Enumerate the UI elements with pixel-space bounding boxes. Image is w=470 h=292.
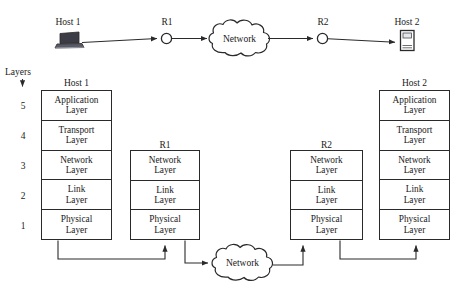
layer-line1: Transport (59, 125, 95, 135)
r1-layer-link: Link Layer (131, 181, 199, 211)
layer-line2: Layer (404, 165, 426, 175)
host2-layer-link: Link Layer (380, 180, 449, 210)
r2-router-circle-icon (317, 33, 327, 43)
r2-layer-link: Link Layer (291, 181, 362, 211)
layer-line2: Layer (66, 165, 88, 175)
layer-line2: Layer (316, 195, 338, 205)
layer-line1: Physical (399, 214, 431, 224)
link-r2-to-host2 (328, 39, 395, 42)
host2-top-label: Host 2 (383, 18, 431, 28)
layer-line1: Network (149, 155, 182, 165)
layer-line2: Layer (316, 165, 338, 175)
network-cloud-label-top: Network (212, 34, 267, 44)
layer-line1: Physical (61, 214, 93, 224)
r2-protocol-stack: Network Layer Link Layer Physical Layer (290, 150, 363, 240)
layer-line2: Layer (154, 225, 176, 235)
layer-line2: Layer (154, 165, 176, 175)
host2-layer-application: Application Layer (380, 91, 449, 121)
layer-line1: Application (393, 95, 437, 105)
r2-layer-network: Network Layer (291, 151, 362, 181)
layer-line2: Layer (316, 225, 338, 235)
host1-stack-title: Host 1 (41, 78, 112, 88)
host1-layer-link: Link Layer (42, 180, 111, 210)
r1-layer-network: Network Layer (131, 151, 199, 181)
layer-line1: Link (406, 184, 424, 194)
layer-line1: Network (398, 155, 431, 165)
r1-router-circle-icon (161, 33, 171, 43)
path-r2-physical-to-host2-physical (340, 241, 416, 260)
path-r1-physical-to-network-cloud (185, 241, 208, 264)
host2-stack-title: Host 2 (379, 78, 450, 88)
layer-line2: Layer (404, 105, 426, 115)
layer-line2: Layer (66, 225, 88, 235)
layer-line2: Layer (404, 135, 426, 145)
host2-layer-network: Network Layer (380, 151, 449, 181)
host1-layer-application: Application Layer (42, 91, 111, 121)
host1-top-label: Host 1 (44, 18, 92, 28)
host2-layer-physical: Physical Layer (380, 210, 449, 239)
r1-layer-physical: Physical Layer (131, 210, 199, 239)
layer-number-2: 2 (16, 191, 30, 201)
r2-stack-title: R2 (290, 140, 363, 150)
host1-layer-transport: Transport Layer (42, 121, 111, 151)
server-icon (401, 31, 415, 51)
r1-stack-title: R1 (130, 140, 200, 150)
layers-caption: Layers (5, 67, 31, 77)
layer-line1: Link (68, 184, 86, 194)
layer-line1: Link (156, 185, 174, 195)
host1-protocol-stack: Application Layer Transport Layer Networ… (41, 90, 112, 240)
layer-line1: Physical (311, 214, 343, 224)
network-cloud-label-bottom: Network (215, 258, 270, 268)
layer-line1: Transport (397, 125, 433, 135)
laptop-icon (55, 32, 84, 48)
link-host1-to-r1 (82, 39, 157, 43)
layer-number-4: 4 (16, 131, 30, 141)
layer-line1: Application (55, 95, 99, 105)
layer-number-1: 1 (16, 221, 30, 231)
host1-layer-network: Network Layer (42, 151, 111, 181)
layer-line1: Network (310, 155, 343, 165)
layer-line2: Layer (404, 195, 426, 205)
layer-line2: Layer (404, 225, 426, 235)
layer-line1: Network (60, 155, 93, 165)
layer-line1: Physical (149, 214, 181, 224)
r1-top-label: R1 (152, 18, 182, 28)
layer-line2: Layer (66, 105, 88, 115)
host1-layer-physical: Physical Layer (42, 210, 111, 239)
layer-number-3: 3 (16, 161, 30, 171)
r2-top-label: R2 (308, 18, 338, 28)
host2-layer-transport: Transport Layer (380, 121, 449, 151)
layer-line1: Link (318, 185, 336, 195)
r2-layer-physical: Physical Layer (291, 210, 362, 239)
layer-line2: Layer (154, 195, 176, 205)
host2-protocol-stack: Application Layer Transport Layer Networ… (379, 90, 450, 240)
r1-protocol-stack: Network Layer Link Layer Physical Layer (130, 150, 200, 240)
network-layers-diagram: Host 1 R1 Network R2 Host 2 Layers 5 4 3… (0, 0, 470, 292)
layer-number-5: 5 (16, 101, 30, 111)
path-host1-physical-to-r1-physical (58, 241, 165, 260)
layer-line2: Layer (66, 135, 88, 145)
layer-line2: Layer (66, 195, 88, 205)
path-network-cloud-to-r2-physical (273, 246, 303, 266)
